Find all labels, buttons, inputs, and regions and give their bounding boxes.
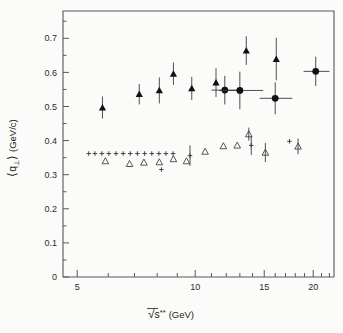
y-axis-title: ⟨q⊥⟩ (GeV/c): [5, 119, 20, 177]
y-tick-label: 0: [52, 272, 57, 282]
y-tick-label: 0.6: [44, 68, 57, 78]
y-tick-label: 0.3: [44, 170, 57, 180]
y-tick-label: 0.5: [44, 102, 57, 112]
svg-text:√s** (GeV): √s** (GeV): [148, 307, 194, 321]
x-tick-label: 15: [259, 282, 269, 292]
x-tick-label: 5: [75, 282, 80, 292]
marker-filled-circle: [272, 95, 279, 102]
x-tick-label: 20: [308, 282, 318, 292]
x-axis-title: √s** (GeV): [147, 307, 194, 321]
y-tick-label: 0.1: [44, 238, 57, 248]
y-tick-label: 0.2: [44, 204, 57, 214]
x-tick-label: 10: [190, 282, 200, 292]
chart-figure: 5101520 00.10.20.30.40.50.60.7 √s** (GeV…: [0, 0, 343, 333]
scatter-plot: 5101520 00.10.20.30.40.50.60.7 √s** (GeV…: [0, 0, 343, 333]
y-tick-label: 0.4: [44, 136, 57, 146]
y-tick-label: 0.7: [44, 33, 57, 43]
marker-filled-circle: [236, 87, 243, 94]
marker-filled-circle: [312, 68, 319, 75]
figure-background: [0, 0, 343, 333]
svg-text:⟨q⊥⟩ (GeV/c): ⟨q⊥⟩ (GeV/c): [5, 119, 20, 177]
